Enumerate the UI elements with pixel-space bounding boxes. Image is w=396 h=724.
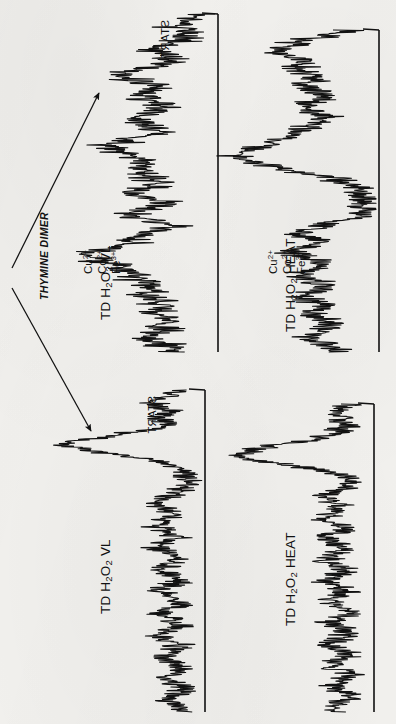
panel-bottom-left bbox=[54, 389, 205, 712]
thymine-dimer-annotation: THYMINE DIMER bbox=[38, 212, 50, 300]
ion-list-top-right: Cu2+Co2+Fe3+ bbox=[265, 250, 307, 274]
arrow-to-bottom-panel bbox=[12, 288, 91, 431]
panel-start-tick bbox=[358, 403, 374, 404]
start-label-bottom-panel: START bbox=[146, 396, 158, 434]
figure-canvas: THYMINE DIMER START START TD H2O2 VL Cu2… bbox=[0, 0, 396, 724]
ion-entry: Co2+ bbox=[279, 250, 293, 274]
ion-entry: Fe3+ bbox=[108, 250, 122, 274]
panel-start-tick bbox=[363, 29, 379, 30]
panel-bottom-right bbox=[229, 403, 374, 712]
start-label-top-panel: START bbox=[159, 20, 171, 58]
ion-entry: Co2+ bbox=[94, 250, 108, 274]
panel-start-tick bbox=[189, 389, 205, 390]
panel-label-bottom-right: TD H2O2 HEAT bbox=[283, 532, 299, 626]
trace-line bbox=[54, 390, 202, 712]
panel-label-bottom-left: TD H2O2 VL bbox=[98, 539, 114, 614]
ion-list-top-left: Cu2+Co2+Fe3+ bbox=[80, 250, 122, 274]
arrow-to-top-panel bbox=[12, 93, 99, 268]
ion-entry: Cu2+ bbox=[265, 250, 279, 274]
ion-entry: Cu2+ bbox=[80, 250, 94, 274]
trace-plot-area bbox=[0, 0, 396, 724]
ion-entry: Fe3+ bbox=[293, 250, 307, 274]
